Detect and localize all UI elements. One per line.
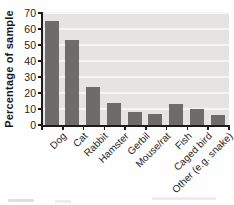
y-tick-70 xyxy=(38,12,42,14)
bar-hamster xyxy=(107,103,121,125)
y-tick-20 xyxy=(38,92,42,94)
y-tick-label-40: 40 xyxy=(0,56,36,67)
y-tick-60 xyxy=(38,28,42,30)
y-tick-label-20: 20 xyxy=(0,88,36,99)
bar-dog xyxy=(45,21,59,125)
y-tick-10 xyxy=(38,108,42,110)
bar-other-e-g-snake xyxy=(211,115,225,125)
x-tick-2 xyxy=(83,126,85,130)
plot-area xyxy=(42,13,229,125)
gridline-60 xyxy=(42,28,229,30)
bar-fish xyxy=(169,104,183,125)
y-tick-label-60: 60 xyxy=(0,24,36,35)
x-tick-1 xyxy=(62,126,64,130)
bar-caged-bird xyxy=(190,109,204,125)
x-tick-7 xyxy=(187,126,189,130)
cropped-caption-fragment xyxy=(152,197,216,200)
gridline-70 xyxy=(42,12,229,14)
x-tick-5 xyxy=(145,126,147,130)
x-tick-6 xyxy=(166,126,168,130)
y-tick-40 xyxy=(38,60,42,62)
y-tick-label-0: 0 xyxy=(0,120,36,131)
y-tick-label-30: 30 xyxy=(0,72,36,83)
x-tick-0 xyxy=(41,126,43,130)
bar-mouse-rat xyxy=(148,114,162,125)
x-category-label-text: Dog xyxy=(49,131,69,151)
y-tick-label-10: 10 xyxy=(0,104,36,115)
bar-chart-figure: Percentage of sample 010203040506070 Dog… xyxy=(0,0,234,205)
x-tick-8 xyxy=(207,126,209,130)
bar-gerbil xyxy=(128,112,142,125)
x-tick-9 xyxy=(228,126,230,130)
x-tick-3 xyxy=(104,126,106,130)
cropped-caption-fragment xyxy=(8,199,34,202)
y-tick-30 xyxy=(38,76,42,78)
y-tick-label-50: 50 xyxy=(0,40,36,51)
y-tick-50 xyxy=(38,44,42,46)
bar-rabbit xyxy=(86,87,100,125)
bar-cat xyxy=(65,40,79,125)
x-tick-4 xyxy=(124,126,126,130)
x-axis-line xyxy=(41,125,230,127)
cropped-caption-fragment xyxy=(55,200,71,203)
y-tick-label-70: 70 xyxy=(0,8,36,19)
